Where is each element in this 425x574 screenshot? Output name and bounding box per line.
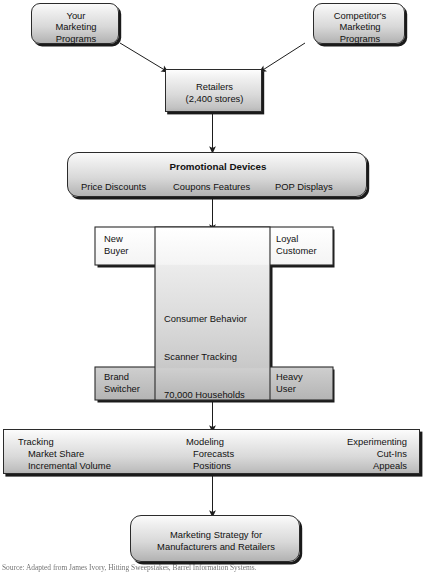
consumer-panel-center-line-2: Scanner Tracking: [164, 351, 273, 364]
consumer-panel-label-new-buyer-line-1: New: [104, 233, 123, 245]
analytics-column-3-item-1: Cut-Ins: [279, 448, 407, 460]
promotional-devices-item-pop-displays: POP Displays: [275, 181, 333, 193]
competitors-marketing-programs[interactable]: Competitor's Marketing Programs: [313, 3, 405, 44]
consumer-panel-label-loyal-customer-line-2: Customer: [276, 245, 317, 257]
competitors-marketing-programs-line-2: Marketing: [314, 21, 406, 33]
retailers[interactable]: Retailers (2,400 stores): [165, 69, 262, 112]
analytics-column-1-heading: Tracking: [18, 436, 54, 448]
source-caption: Source: Adapted from James Ivory, Hittin…: [2, 563, 422, 572]
promotional-devices-heading: Promotional Devices: [68, 161, 368, 173]
promotional-devices[interactable]: Promotional Devices Price Discounts Coup…: [67, 152, 367, 197]
analytics-column-2-heading: Modeling: [186, 436, 224, 448]
consumer-panel-label-heavy-user-line-2: User: [276, 383, 296, 395]
promotional-devices-item-price-discounts: Price Discounts: [81, 181, 146, 193]
marketing-strategy-line-1: Marketing Strategy for: [131, 529, 301, 541]
competitors-marketing-programs-line-3: Programs: [314, 33, 406, 45]
analytics-column-1-item-2: Incremental Volume: [28, 460, 111, 472]
promotional-devices-item-coupons-features: Coupons Features: [173, 181, 250, 193]
your-marketing-programs-line-1: Your: [32, 10, 120, 22]
consumer-panel-label-heavy-user-line-1: Heavy: [276, 371, 303, 383]
analytics-column-3-item-2: Appeals: [279, 460, 407, 472]
analytics-column-1-item-1: Market Share: [28, 448, 84, 460]
consumer-panel-label-brand-switcher-line-1: Brand: [104, 371, 129, 383]
analytics-column-2-item-2: Positions: [193, 460, 231, 472]
arrow-competitor-programs-to-retailers: [262, 43, 305, 71]
your-marketing-programs-line-2: Marketing: [32, 21, 120, 33]
consumer-panel-label-new-buyer-line-2: Buyer: [104, 245, 129, 257]
analytics-column-3-heading: Experimenting: [279, 436, 407, 448]
marketing-strategy-outcome[interactable]: Marketing Strategy for Manufacturers and…: [130, 515, 300, 562]
diagram-canvas: Your Marketing Programs Competitor's Mar…: [0, 0, 425, 574]
consumer-panel-center-line-3: 70,000 Households: [164, 389, 273, 402]
retailers-line-2: (2,400 stores): [166, 93, 263, 105]
consumer-panel-label-loyal-customer-line-1: Loyal: [276, 233, 298, 245]
arrow-your-programs-to-retailers: [120, 43, 166, 71]
your-marketing-programs-line-3: Programs: [32, 33, 120, 45]
analytics-column-2-item-1: Forecasts: [193, 448, 234, 460]
retailers-line-1: Retailers: [166, 81, 263, 93]
marketing-strategy-line-2: Manufacturers and Retailers: [131, 541, 301, 553]
competitors-marketing-programs-line-1: Competitor's: [314, 10, 406, 22]
consumer-panel-label-brand-switcher-line-2: Switcher: [104, 383, 140, 395]
analytics-applications-band[interactable]: Tracking Market Share Incremental Volume…: [3, 429, 420, 474]
consumer-panel-center-line-1: Consumer Behavior: [164, 313, 273, 326]
your-marketing-programs[interactable]: Your Marketing Programs: [31, 3, 119, 44]
